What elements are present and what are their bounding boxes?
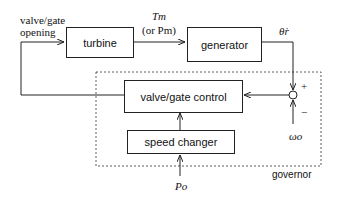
speed-changer-block: speed changer <box>127 130 235 154</box>
tm-label: Tm <box>152 10 166 22</box>
p-o-label: Po <box>175 180 187 192</box>
governor-label: governor <box>272 169 311 181</box>
speed-changer-label: speed changer <box>145 136 218 148</box>
valve-gate-opening-label-line1: valve/gate <box>20 14 65 26</box>
omega-o-label: ωo <box>289 130 302 142</box>
valve-gate-control-block: valve/gate control <box>124 80 243 113</box>
generator-block: generator <box>187 27 262 62</box>
valve-gate-opening-label-line2: opening <box>20 26 55 38</box>
turbine-label: turbine <box>83 37 117 49</box>
generator-label: generator <box>201 39 248 51</box>
theta-r-dot-label: θ̇r <box>279 25 289 37</box>
minus-sign: − <box>301 106 307 118</box>
plus-sign: + <box>301 80 307 92</box>
valve-gate-control-label: valve/gate control <box>140 91 226 103</box>
or-pm-label: (or Pm) <box>142 24 176 36</box>
turbine-block: turbine <box>66 27 134 58</box>
governor-block-diagram: turbine generator valve/gate control spe… <box>0 0 340 201</box>
